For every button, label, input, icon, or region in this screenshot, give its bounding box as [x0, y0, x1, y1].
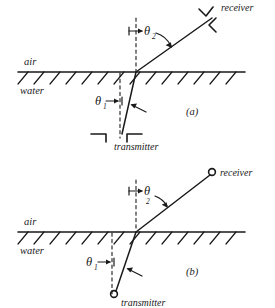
panel-b-receiver-symbol	[209, 169, 216, 176]
panel-b-water-label: water	[20, 245, 45, 256]
panel-b-receiver-label: receiver	[220, 167, 252, 178]
panel-a-caption: (a)	[186, 106, 199, 118]
panel-a-water-label: water	[20, 85, 45, 96]
panel-a-theta1-symbol: θ	[95, 94, 101, 108]
panel-b-air-label: air	[24, 216, 37, 227]
panel-b-water-ray-pointer	[127, 268, 143, 276]
panel-a-hatching	[18, 72, 236, 84]
panel-a-transmitter-label: transmitter	[114, 141, 159, 152]
panel-a-theta1-subscript: 1	[103, 102, 107, 111]
panel-b-theta2-pointer	[155, 196, 168, 208]
refraction-diagram: receiver transmitter θ 2 θ 1	[0, 0, 275, 308]
panel-b-theta1-symbol: θ	[86, 255, 92, 269]
figure-root: receiver transmitter θ 2 θ 1	[0, 0, 275, 308]
panel-b-hatching	[18, 232, 236, 244]
panel-a-theta2-pointer	[156, 33, 172, 48]
panel-b-theta1-subscript: 1	[94, 263, 98, 272]
panel-b: receiver transmitter θ 2 θ 1	[18, 167, 252, 308]
panel-a: receiver transmitter θ 2 θ 1	[18, 2, 253, 152]
panel-b-transmitter-label: transmitter	[121, 297, 166, 308]
panel-a-ray-water	[122, 72, 136, 134]
panel-a-water-ray-pointer	[131, 104, 147, 112]
panel-a-receiver-symbol	[199, 7, 216, 32]
panel-b-ray-water	[116, 232, 136, 291]
panel-a-theta2-subscript: 2	[152, 32, 156, 41]
panel-a-air-label: air	[24, 56, 37, 67]
panel-a-receiver-label: receiver	[221, 2, 253, 13]
panel-b-theta2-subscript: 2	[146, 197, 150, 206]
panel-b-theta2-symbol: θ	[144, 184, 150, 198]
panel-a-theta2-symbol: θ	[144, 24, 150, 38]
panel-b-caption: (b)	[186, 266, 199, 278]
